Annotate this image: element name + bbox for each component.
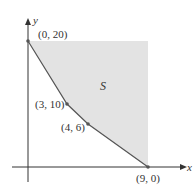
y-axis-arrow-icon bbox=[25, 18, 31, 25]
diagram-canvas: y x (0, 20) (3, 10) (4, 6) (9, 0) S bbox=[0, 0, 196, 190]
vertex-9-0 bbox=[146, 165, 150, 169]
vertex-0-20 bbox=[26, 39, 30, 43]
feasible-region-diagram: y x (0, 20) (3, 10) (4, 6) (9, 0) S bbox=[0, 0, 196, 190]
point-label-4-6: (4, 6) bbox=[61, 121, 85, 134]
point-label-3-10: (3, 10) bbox=[35, 98, 65, 111]
vertex-3-10 bbox=[65, 102, 69, 106]
point-label-0-20: (0, 20) bbox=[38, 28, 68, 41]
region-label-s: S bbox=[100, 79, 106, 93]
x-axis-arrow-icon bbox=[180, 164, 187, 170]
vertex-4-6 bbox=[86, 122, 90, 126]
point-label-9-0: (9, 0) bbox=[136, 172, 160, 185]
x-axis-label: x bbox=[186, 161, 192, 173]
y-axis-label: y bbox=[32, 14, 38, 26]
